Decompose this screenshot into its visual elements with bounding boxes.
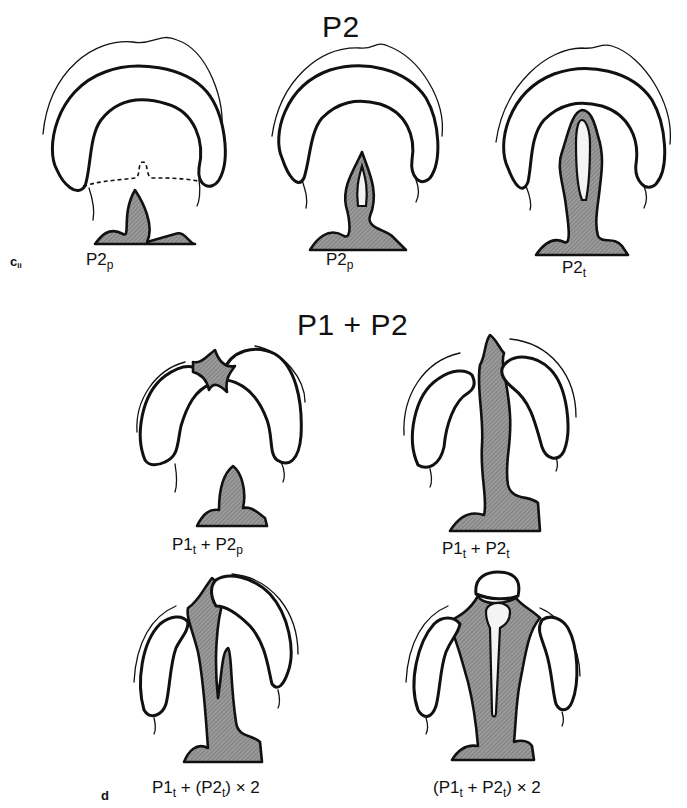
- specimen-c1-label: P2p: [86, 250, 113, 272]
- label-main: P2: [326, 250, 347, 269]
- panel-d-letter: d: [101, 788, 109, 803]
- specimen-d4-illustration: [404, 572, 604, 772]
- label-part: + P2: [463, 778, 503, 797]
- label-part: ) × 2: [225, 778, 260, 797]
- panel-c-letter: cii: [10, 254, 22, 270]
- specimen-d2-illustration: [400, 335, 600, 535]
- specimen-c3-illustration: [494, 40, 674, 255]
- specimen-c1-illustration: [35, 30, 235, 240]
- specimen-d2-label: P1t + P2t: [442, 539, 510, 561]
- specimen-d3-illustration: [132, 572, 332, 772]
- label-part: P1: [442, 539, 463, 558]
- label-part: + (P2: [176, 778, 222, 797]
- specimen-d3-label: P1t + (P2t) × 2: [152, 778, 260, 800]
- label-part: P1: [152, 778, 173, 797]
- label-main: P2: [562, 258, 583, 277]
- panel-d-title: P1 + P2: [297, 308, 408, 342]
- label-sub: p: [107, 258, 114, 272]
- label-sub: t: [506, 547, 509, 561]
- label-part: ) × 2: [506, 778, 541, 797]
- label-sub: t: [583, 266, 586, 280]
- label-main: P2: [86, 250, 107, 269]
- panel-c-title: P2: [322, 10, 360, 44]
- panel-letter-sub: ii: [17, 261, 21, 270]
- specimen-d1-illustration: [135, 340, 315, 530]
- specimen-c2-illustration: [270, 40, 450, 250]
- label-part: P1: [172, 535, 193, 554]
- specimen-d4-label: (P1t + P2t) × 2: [433, 778, 541, 800]
- label-sub: p: [236, 543, 243, 557]
- panel-letter-text: d: [101, 788, 109, 803]
- label-part: + P2: [466, 539, 506, 558]
- label-part: (P1: [433, 778, 459, 797]
- specimen-d1-label: P1t + P2p: [172, 535, 243, 557]
- label-sub: p: [347, 258, 354, 272]
- specimen-c2-label: P2p: [326, 250, 353, 272]
- specimen-c3-label: P2t: [562, 258, 586, 280]
- label-part: + P2: [196, 535, 236, 554]
